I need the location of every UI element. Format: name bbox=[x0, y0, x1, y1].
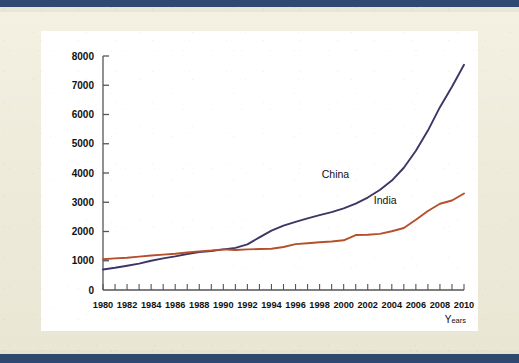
svg-text:5000: 5000 bbox=[72, 138, 95, 149]
svg-text:0: 0 bbox=[88, 285, 94, 296]
svg-text:2008: 2008 bbox=[430, 300, 450, 310]
scanned-page: 010002000300040005000600070008000 198019… bbox=[0, 0, 519, 363]
svg-text:1994: 1994 bbox=[261, 300, 282, 310]
chart-series bbox=[103, 65, 464, 270]
svg-text:1998: 1998 bbox=[309, 300, 329, 310]
chart-card: 010002000300040005000600070008000 198019… bbox=[41, 31, 478, 331]
svg-text:6000: 6000 bbox=[72, 109, 95, 120]
svg-text:2006: 2006 bbox=[406, 300, 426, 310]
svg-text:2010: 2010 bbox=[454, 300, 474, 310]
series-label-china: China bbox=[322, 168, 349, 180]
svg-text:1990: 1990 bbox=[213, 300, 233, 310]
svg-text:3000: 3000 bbox=[72, 197, 95, 208]
bottom-band bbox=[0, 353, 519, 363]
line-chart: 010002000300040005000600070008000 198019… bbox=[41, 31, 478, 331]
svg-text:2000: 2000 bbox=[333, 300, 353, 310]
svg-text:1996: 1996 bbox=[285, 300, 305, 310]
top-band-inner bbox=[0, 7, 519, 12]
x-axis-title: Years bbox=[445, 314, 466, 325]
svg-text:1988: 1988 bbox=[189, 300, 209, 310]
svg-text:2002: 2002 bbox=[358, 300, 378, 310]
svg-text:1984: 1984 bbox=[141, 300, 162, 310]
svg-text:1982: 1982 bbox=[117, 300, 137, 310]
x-axis-title-rest: ears bbox=[451, 316, 466, 325]
svg-text:1000: 1000 bbox=[72, 255, 95, 266]
svg-text:1980: 1980 bbox=[93, 300, 113, 310]
svg-text:8000: 8000 bbox=[72, 51, 95, 62]
svg-text:1992: 1992 bbox=[237, 300, 257, 310]
svg-text:1986: 1986 bbox=[165, 300, 185, 310]
series-label-india: India bbox=[374, 194, 397, 206]
svg-text:2000: 2000 bbox=[72, 226, 95, 237]
bottom-band-inner bbox=[0, 350, 519, 354]
svg-text:4000: 4000 bbox=[72, 168, 95, 179]
svg-text:7000: 7000 bbox=[72, 80, 95, 91]
x-axis: 1980198219841986198819901992199419961998… bbox=[93, 284, 474, 310]
svg-text:2004: 2004 bbox=[382, 300, 403, 310]
